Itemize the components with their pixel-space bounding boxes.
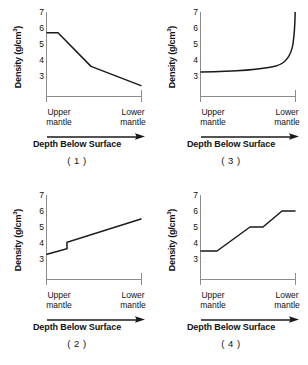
chart-panel-4: Density (g/cm3) 7 6 5 4 3 (154, 183, 308, 365)
x-axis-end-label: Lower mantle (114, 108, 152, 127)
x-axis-end-label: Lower mantle (268, 291, 306, 310)
y-axis-title-text: Density (g/cm (167, 215, 177, 271)
y-tick-4: 4 (34, 239, 44, 248)
chart-2-svg (46, 195, 142, 287)
chart-1-svg (46, 12, 142, 104)
y-tick-3: 3 (188, 255, 198, 264)
x-axis-end-line2: mantle (268, 301, 306, 311)
y-tick-6: 6 (188, 207, 198, 216)
y-axis-title-exponent: 3 (12, 29, 18, 32)
x-axis-start-line2: mantle (40, 301, 78, 311)
x-axis-title-1: Depth Below Surface (0, 139, 154, 149)
chart-panel-2: Density (g/cm3) 7 6 5 4 3 (0, 183, 154, 365)
x-axis-title-4: Depth Below Surface (154, 322, 308, 332)
chart-caption-1: ( 1 ) (0, 155, 154, 166)
y-tick-7: 7 (34, 191, 44, 200)
y-tick-4: 4 (34, 56, 44, 65)
y-tick-5: 5 (34, 40, 44, 49)
y-axis-title-exponent: 3 (166, 29, 172, 32)
y-tick-6: 6 (34, 24, 44, 33)
x-axis-end-label: Lower mantle (268, 108, 306, 127)
x-axis-end-labels-4: Upper mantle Lower mantle (194, 291, 306, 310)
y-tick-6: 6 (188, 24, 198, 33)
x-axis-end-labels-3: Upper mantle Lower mantle (194, 108, 306, 127)
x-axis-start-label: Upper mantle (194, 108, 232, 127)
y-tick-3: 3 (34, 255, 44, 264)
y-axis-title-text: Density (g/cm (13, 32, 23, 88)
y-axis-title: Density (g/cm3) (167, 198, 177, 282)
x-axis-start-line2: mantle (194, 301, 232, 311)
chart-3-svg (200, 12, 296, 104)
chart-4-svg (200, 195, 296, 287)
x-axis-title-2: Depth Below Surface (0, 322, 154, 332)
y-axis-title-exponent: 3 (166, 212, 172, 215)
y-axis-title-text: Density (g/cm (167, 32, 177, 88)
plot-area-1: 7 6 5 4 3 (46, 12, 142, 104)
y-axis-title: Density (g/cm3) (13, 198, 23, 282)
y-tick-5: 5 (188, 223, 198, 232)
y-axis-title: Density (g/cm3) (13, 15, 23, 99)
chart-caption-4: ( 4 ) (154, 338, 308, 349)
chart-panel-3: Density (g/cm3) 7 6 5 4 3 (154, 0, 308, 182)
y-tick-7: 7 (34, 8, 44, 17)
x-axis-start-label: Upper mantle (194, 291, 232, 310)
chart-panel-1: Density (g/cm3) 7 6 5 4 3 (0, 0, 154, 182)
x-axis-end-labels-2: Upper mantle Lower mantle (40, 291, 152, 310)
y-tick-6: 6 (34, 207, 44, 216)
y-axis-title-close: ) (13, 26, 23, 29)
y-tick-3: 3 (188, 72, 198, 81)
chart-3-curve (201, 12, 295, 72)
y-axis-title-close: ) (167, 26, 177, 29)
x-axis-start-line2: mantle (194, 118, 232, 128)
y-tick-7: 7 (188, 8, 198, 17)
x-axis-title-3: Depth Below Surface (154, 139, 308, 149)
y-tick-5: 5 (188, 40, 198, 49)
y-tick-5: 5 (34, 223, 44, 232)
y-axis-title-close: ) (13, 209, 23, 212)
y-tick-3: 3 (34, 72, 44, 81)
x-axis-end-line2: mantle (268, 118, 306, 128)
y-tick-7: 7 (188, 191, 198, 200)
x-axis-end-labels-1: Upper mantle Lower mantle (40, 108, 152, 127)
x-axis-end-line2: mantle (114, 118, 152, 128)
x-axis-start-line2: mantle (40, 118, 78, 128)
figure-root: Density (g/cm3) 7 6 5 4 3 (0, 0, 308, 365)
chart-caption-2: ( 2 ) (0, 338, 154, 349)
y-tick-4: 4 (188, 56, 198, 65)
x-axis-start-label: Upper mantle (40, 291, 78, 310)
plot-area-4: 7 6 5 4 3 (200, 195, 296, 287)
plot-area-3: 7 6 5 4 3 (200, 12, 296, 104)
y-axis-title-text: Density (g/cm (13, 215, 23, 271)
y-tick-4: 4 (188, 239, 198, 248)
x-axis-end-label: Lower mantle (114, 291, 152, 310)
chart-4-curve (201, 211, 295, 251)
chart-caption-3: ( 3 ) (154, 155, 308, 166)
chart-1-curve (47, 33, 141, 86)
y-axis-title-exponent: 3 (12, 212, 18, 215)
y-axis-title: Density (g/cm3) (167, 15, 177, 99)
chart-2-curve (47, 219, 141, 254)
plot-area-2: 7 6 5 4 3 (46, 195, 142, 287)
y-axis-title-close: ) (167, 209, 177, 212)
x-axis-end-line2: mantle (114, 301, 152, 311)
x-axis-start-label: Upper mantle (40, 108, 78, 127)
